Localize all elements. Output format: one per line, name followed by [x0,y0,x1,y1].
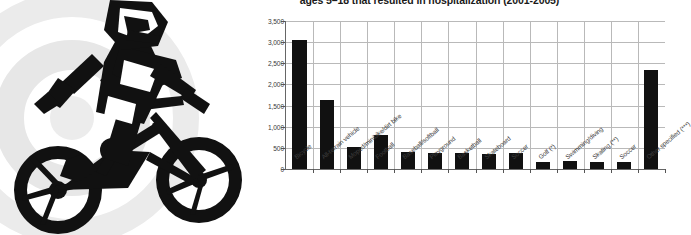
gridline-vertical [557,21,558,169]
y-axis-tick-label: 1,500 [238,102,284,109]
chart-panel: ages 5–18 that resulted in hospitalizati… [190,0,669,235]
y-axis-tick-label: 2,500 [238,60,284,67]
gridline-vertical [530,21,531,169]
gridline-vertical [638,21,639,169]
gridline-vertical [313,21,314,169]
y-axis-tick-label: 3,000 [238,39,284,46]
y-axis-tick-label: 500 [238,144,284,151]
chart-title: ages 5–18 that resulted in hospitalizati… [190,0,669,6]
y-axis-tick-label: 2,000 [238,81,284,88]
x-axis-labels: BicycleAll-terrain vehicleMoped/minibike… [285,155,685,235]
y-axis-tick-label: 0 [238,166,284,173]
y-axis-tick-label: 1,000 [238,123,284,130]
y-axis-tick-label: 3,500 [238,18,284,25]
